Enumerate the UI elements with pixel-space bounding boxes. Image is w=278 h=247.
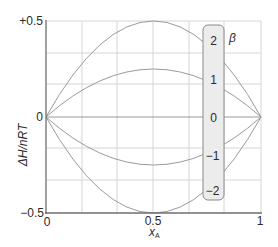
x-tick-0: 0 [44,215,51,229]
legend-item-2: 2 [210,34,217,48]
legend-title: β [228,31,236,45]
chart-figure: +0.5 0 −0.5 0 0.5 1 ΔH/nRT xA 2 1 0 −1 −… [0,0,278,247]
y-tick-zero: 0 [36,110,43,124]
legend-item-minus-2: −2 [206,184,220,198]
legend-item-0: 0 [210,111,217,125]
y-axis-title: ΔH/nRT [16,122,30,167]
x-axis-title-sub: A [155,232,160,239]
legend-item-1: 1 [210,73,217,87]
legend: 2 1 0 −1 −2 β [203,25,236,200]
x-tick-1: 1 [257,214,264,228]
y-tick-top: +0.5 [19,14,43,28]
y-tick-bottom: −0.5 [20,206,44,220]
legend-item-minus-1: −1 [206,149,220,163]
